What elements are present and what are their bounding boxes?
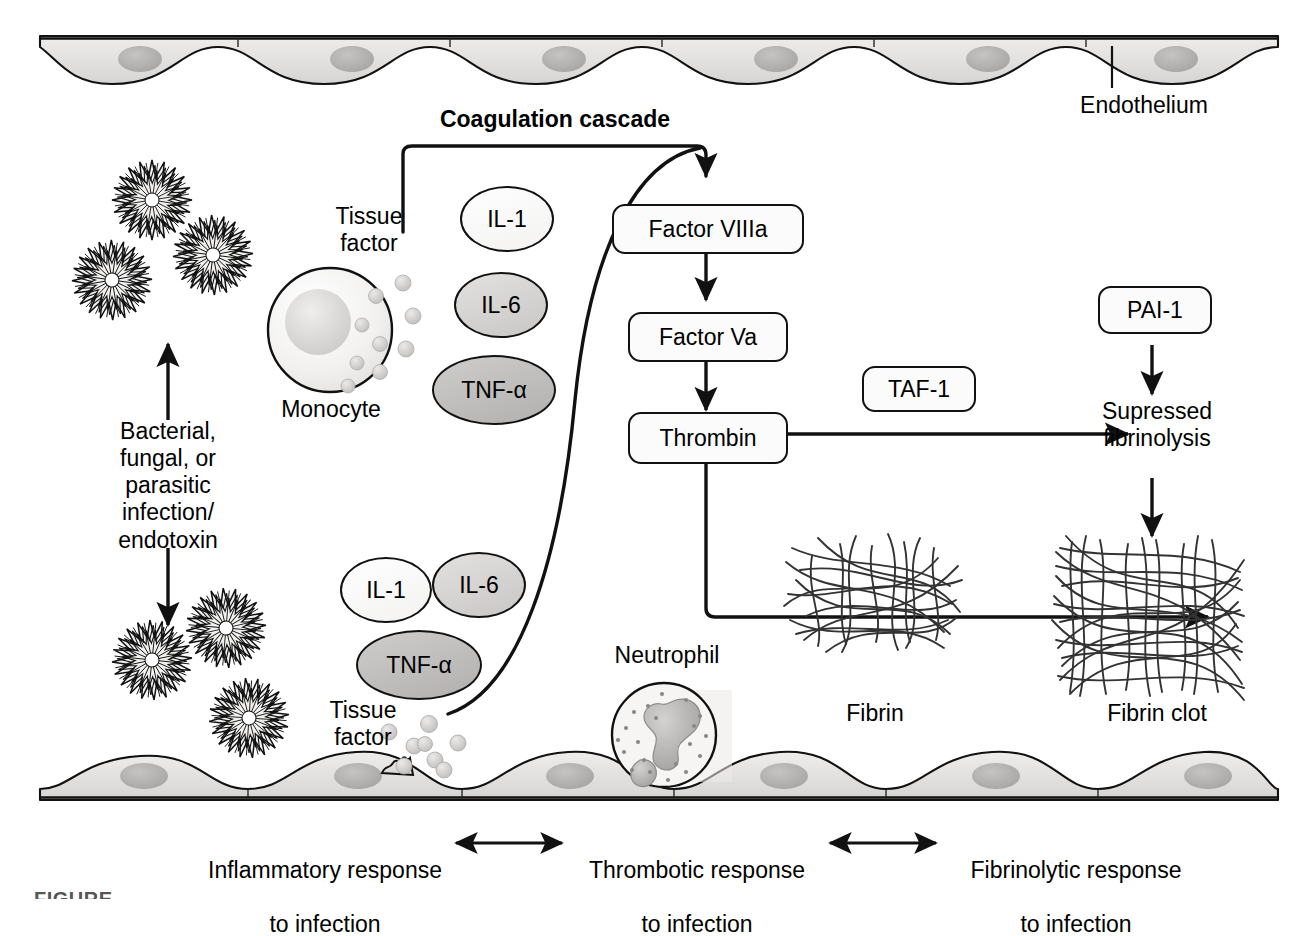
tissue-factor-label-lower: Tissue factor [288, 697, 438, 751]
cytokine-il1-lower-label: IL-1 [342, 577, 430, 604]
fibrin-label: Fibrin [790, 700, 960, 727]
monocyte-cell [268, 268, 421, 393]
cascade-box-factor-viiia[interactable]: Factor VIIIa [612, 204, 804, 254]
taf1-box[interactable]: TAF-1 [862, 366, 976, 412]
cascade-box-thrombin-label: Thrombin [630, 425, 786, 452]
footer-item-inflammatory: Inflammatory response to infection [190, 830, 460, 936]
cytokine-il6-lower-label: IL-6 [434, 572, 524, 599]
footer-item-fibrinolytic-line1: Fibrinolytic response [971, 857, 1182, 883]
arrow-thrombin-to-fibrin [706, 462, 1208, 617]
cytokine-tnfa-lower[interactable]: TNF-α [356, 630, 482, 700]
footer-item-thrombotic-line1: Thrombotic response [589, 857, 805, 883]
cytokine-il6-lower[interactable]: IL-6 [432, 552, 526, 618]
figure-caption-partial: FIGURE [34, 888, 113, 899]
fibrin-clot-mesh [1052, 536, 1244, 700]
endothelium-top [40, 36, 1278, 88]
footer-item-inflammatory-line2: to infection [269, 911, 380, 936]
fibrin-mesh [784, 534, 962, 652]
pai1-box[interactable]: PAI-1 [1098, 286, 1212, 334]
cascade-box-factor-va[interactable]: Factor Va [628, 312, 788, 362]
cascade-box-factor-viiia-label: Factor VIIIa [614, 216, 802, 243]
cytokine-tnfa-upper-label: TNF-α [434, 377, 554, 404]
cytokine-il1-upper-label: IL-1 [462, 206, 552, 233]
pathogens-bottom [96, 576, 293, 761]
pai1-label: PAI-1 [1100, 297, 1210, 324]
cytokine-tnfa-upper[interactable]: TNF-α [432, 355, 556, 425]
infection-source-label: Bacterial, fungal, or parasitic infectio… [58, 418, 278, 554]
footer-item-fibrinolytic: Fibrinolytic response to infection [946, 830, 1206, 936]
footer-item-thrombotic: Thrombotic response to infection [572, 830, 822, 936]
neutrophil-label: Neutrophil [592, 642, 742, 669]
endothelium-label: Endothelium [1034, 92, 1254, 119]
cascade-box-thrombin[interactable]: Thrombin [628, 412, 788, 464]
neutrophil-cell [612, 683, 732, 787]
cascade-box-factor-va-label: Factor Va [630, 324, 786, 351]
coagulation-cascade-header: Coagulation cascade [400, 106, 710, 133]
suppressed-fibrinolysis-label: Supressed fibrinolysis [1072, 398, 1242, 452]
cytokine-il6-upper[interactable]: IL-6 [454, 272, 548, 338]
footer-item-fibrinolytic-line2: to infection [1020, 911, 1131, 936]
tissue-factor-label-upper: Tissue factor [294, 203, 444, 257]
cytokine-tnfa-lower-label: TNF-α [358, 652, 480, 679]
pathogens-top [62, 160, 268, 330]
taf1-label: TAF-1 [864, 376, 974, 403]
footer-item-inflammatory-line1: Inflammatory response [208, 857, 442, 883]
fibrin-clot-label: Fibrin clot [1062, 700, 1252, 727]
cytokine-il1-upper[interactable]: IL-1 [460, 186, 554, 252]
footer-item-thrombotic-line2: to infection [641, 911, 752, 936]
cytokine-il6-upper-label: IL-6 [456, 292, 546, 319]
cytokine-il1-lower[interactable]: IL-1 [340, 557, 432, 623]
monocyte-label: Monocyte [256, 396, 406, 423]
